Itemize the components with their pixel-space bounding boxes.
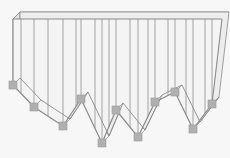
vertex-marker: [9, 81, 17, 89]
vertex-marker: [171, 88, 179, 96]
vertex-marker: [134, 133, 142, 141]
vertex-marker: [208, 100, 216, 108]
figure-container: [0, 0, 230, 158]
vertex-marker: [77, 95, 85, 103]
vertex-marker: [59, 122, 67, 130]
vertex-marker: [189, 125, 197, 133]
vertex-marker: [151, 98, 159, 106]
vertex-marker: [98, 139, 106, 147]
vertex-marker: [30, 103, 38, 111]
vertex-marker: [112, 106, 120, 114]
zigzag-curtain-diagram: [0, 0, 230, 158]
diagram-layers: [9, 12, 229, 147]
